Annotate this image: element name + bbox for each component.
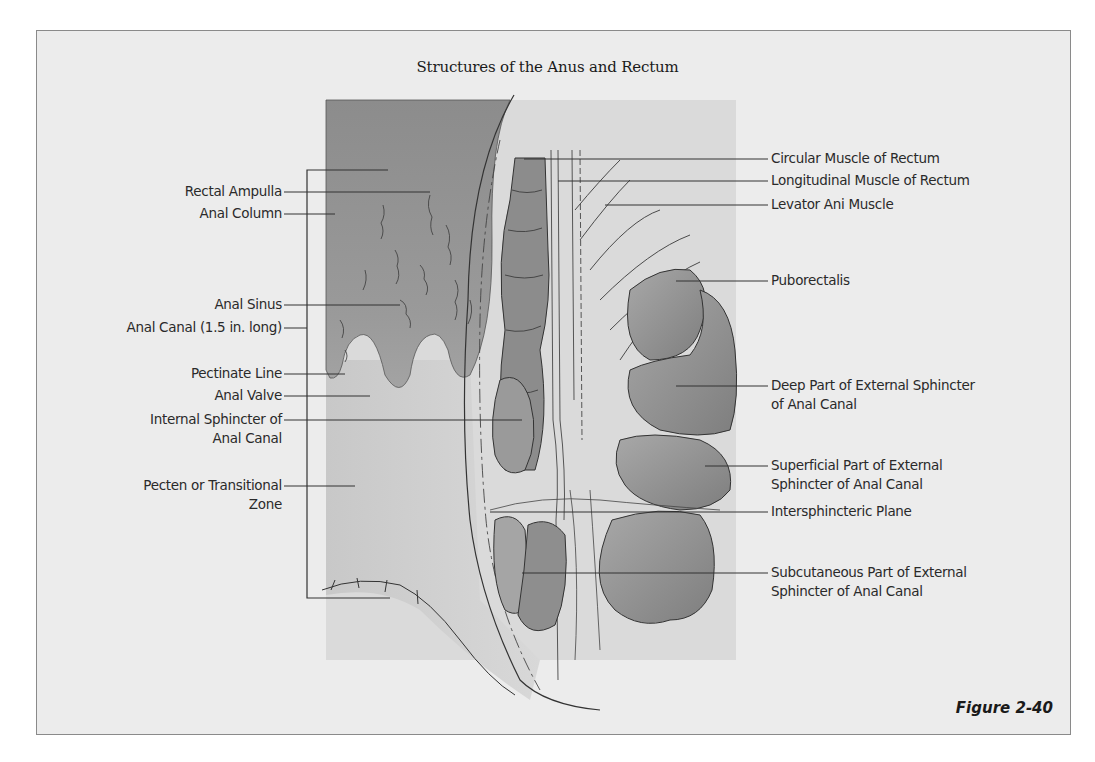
label-anal-canal: Anal Canal (1.5 in. long) [127, 318, 283, 337]
label-circular-muscle: Circular Muscle of Rectum [771, 149, 940, 168]
label-anal-valve: Anal Valve [214, 386, 282, 405]
label-puborectalis: Puborectalis [771, 271, 850, 290]
label-rectal-ampulla: Rectal Ampulla [185, 182, 282, 201]
label-anal-column: Anal Column [199, 204, 282, 223]
label-subcutaneous-external-sphincter: Subcutaneous Part of ExternalSphincter o… [771, 563, 967, 601]
label-superficial-external-sphincter: Superficial Part of ExternalSphincter of… [771, 456, 942, 494]
label-intersphincteric-plane: Intersphincteric Plane [771, 502, 912, 521]
figure-caption: Figure 2-40 [956, 699, 1053, 717]
label-pecten-zone: Pecten or TransitionalZone [143, 476, 282, 514]
label-pectinate-line: Pectinate Line [191, 364, 282, 383]
label-deep-external-sphincter: Deep Part of External Sphincterof Anal C… [771, 376, 975, 414]
subcutaneous-lobe-right [599, 511, 714, 623]
label-internal-sphincter: Internal Sphincter ofAnal Canal [150, 410, 282, 448]
label-anal-sinus: Anal Sinus [214, 295, 282, 314]
label-levator-ani: Levator Ani Muscle [771, 195, 893, 214]
label-longitudinal-muscle: Longitudinal Muscle of Rectum [771, 171, 970, 190]
